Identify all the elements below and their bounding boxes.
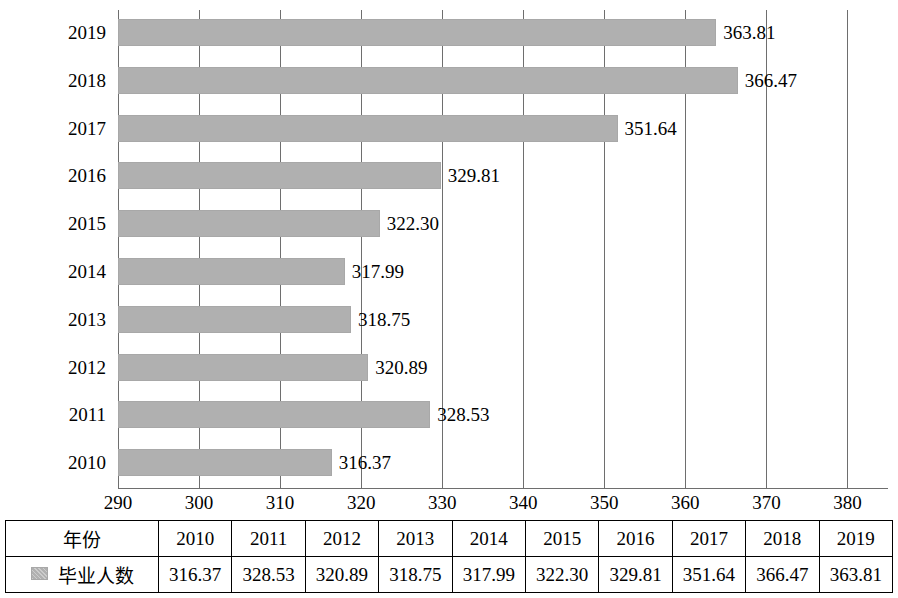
bar-value-label: 320.89	[368, 354, 427, 381]
bar-value-label: 363.81	[716, 19, 775, 46]
bar[interactable]	[118, 449, 332, 476]
table-cell-year: 2010	[159, 521, 232, 557]
table-cell-year: 2014	[452, 521, 525, 557]
x-tick-label: 350	[590, 492, 619, 514]
table-cell-value: 316.37	[159, 557, 232, 593]
x-tick-label: 340	[509, 492, 538, 514]
table-cell-value: 366.47	[746, 557, 819, 593]
bar-row: 2010316.37	[118, 440, 888, 488]
bar-value-label: 351.64	[618, 115, 677, 142]
category-label: 2018	[68, 67, 106, 94]
x-tick-label: 370	[752, 492, 781, 514]
bar[interactable]	[118, 210, 380, 237]
bar-value-label: 322.30	[380, 210, 439, 237]
bar-row: 2011328.53	[118, 392, 888, 440]
table-cell-value: 328.53	[232, 557, 305, 593]
table-cell-value: 317.99	[452, 557, 525, 593]
plot-area: 2019363.812018366.472017351.642016329.81…	[118, 10, 888, 488]
category-label: 2017	[68, 115, 106, 142]
bar-value-label: 329.81	[441, 162, 500, 189]
x-tick-label: 320	[347, 492, 376, 514]
table-cell-value: 329.81	[599, 557, 672, 593]
x-axis-line	[118, 488, 888, 489]
table-header-year: 年份	[6, 521, 159, 557]
bar[interactable]	[118, 162, 441, 189]
table-cell-value: 322.30	[525, 557, 598, 593]
bar-row: 2013318.75	[118, 297, 888, 345]
table-cell-year: 2013	[379, 521, 452, 557]
category-label: 2013	[68, 306, 106, 333]
table-cell-value: 320.89	[305, 557, 378, 593]
bar-row: 2015322.30	[118, 201, 888, 249]
table-cell-year: 2012	[305, 521, 378, 557]
bar[interactable]	[118, 401, 430, 428]
table-cell-year: 2018	[746, 521, 819, 557]
bar-value-label: 316.37	[332, 449, 391, 476]
table-cell-value: 318.75	[379, 557, 452, 593]
category-label: 2012	[68, 354, 106, 381]
category-label: 2016	[68, 162, 106, 189]
bar[interactable]	[118, 354, 368, 381]
chart-page: 2019363.812018366.472017351.642016329.81…	[0, 0, 898, 598]
bar-value-label: 317.99	[345, 258, 404, 285]
table-cell-year: 2019	[819, 521, 892, 557]
category-label: 2011	[69, 401, 106, 428]
bar-row: 2016329.81	[118, 153, 888, 201]
bar-row: 2014317.99	[118, 249, 888, 297]
x-tick-label: 360	[671, 492, 700, 514]
table-cell-value: 351.64	[672, 557, 745, 593]
x-tick-label: 300	[185, 492, 214, 514]
table-cell-year: 2011	[232, 521, 305, 557]
bar[interactable]	[118, 258, 345, 285]
bar-row: 2017351.64	[118, 106, 888, 154]
table-cell-year: 2016	[599, 521, 672, 557]
x-tick-label: 290	[104, 492, 133, 514]
bar-row: 2018366.47	[118, 58, 888, 106]
bar-value-label: 366.47	[738, 67, 797, 94]
bar-row: 2019363.81	[118, 10, 888, 58]
bar-value-label: 328.53	[430, 401, 489, 428]
category-label: 2015	[68, 210, 106, 237]
bar-chart: 2019363.812018366.472017351.642016329.81…	[0, 0, 898, 512]
x-tick-label: 330	[428, 492, 457, 514]
bar-value-label: 318.75	[351, 306, 410, 333]
data-table: 年份 2010201120122013201420152016201720182…	[5, 520, 893, 593]
category-label: 2019	[68, 19, 106, 46]
bar[interactable]	[118, 115, 618, 142]
category-label: 2010	[68, 449, 106, 476]
table-cell-year: 2017	[672, 521, 745, 557]
table-header-series: 毕业人数	[6, 557, 159, 593]
table-row-years: 年份 2010201120122013201420152016201720182…	[6, 521, 893, 557]
bar-row: 2012320.89	[118, 345, 888, 393]
table-cell-year: 2015	[525, 521, 598, 557]
table-row-values: 毕业人数 316.37328.53320.89318.75317.99322.3…	[6, 557, 893, 593]
x-tick-label: 310	[266, 492, 295, 514]
category-label: 2014	[68, 258, 106, 285]
bar[interactable]	[118, 306, 351, 333]
series-label: 毕业人数	[58, 561, 134, 588]
x-tick-label: 380	[833, 492, 862, 514]
legend-swatch-icon	[31, 567, 48, 580]
bar[interactable]	[118, 67, 738, 94]
table-cell-value: 363.81	[819, 557, 892, 593]
bar[interactable]	[118, 19, 716, 46]
